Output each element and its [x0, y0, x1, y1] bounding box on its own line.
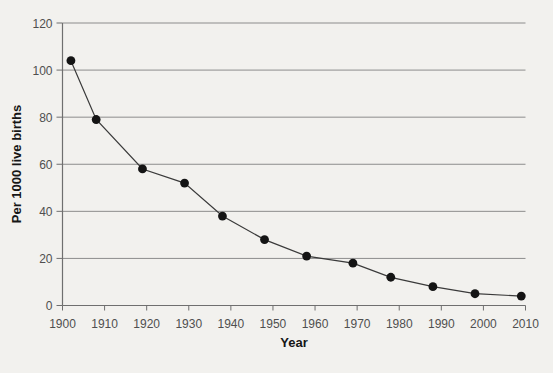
- x-tick-label-2000: 2000: [470, 317, 497, 331]
- infant-mortality-line-chart: 0204060801001201900191019201930194019501…: [0, 0, 553, 373]
- x-tick-label-1970: 1970: [344, 317, 371, 331]
- tick-marks: [57, 23, 526, 311]
- data-point-1978: [386, 273, 395, 282]
- y-tick-label-40: 40: [39, 205, 53, 219]
- gridlines: [63, 23, 526, 258]
- x-tick-label-1960: 1960: [302, 317, 329, 331]
- y-axis-title: Per 1000 live births: [9, 105, 24, 224]
- data-point-1938: [218, 212, 227, 221]
- data-point-1969: [349, 259, 358, 268]
- data-point-1908: [92, 115, 101, 124]
- x-tick-label-1930: 1930: [175, 317, 202, 331]
- x-tick-label-1900: 1900: [49, 317, 76, 331]
- data-point-2009: [517, 292, 526, 301]
- x-axis-title: Year: [280, 335, 307, 350]
- x-tick-label-1940: 1940: [218, 317, 245, 331]
- x-tick-label-1980: 1980: [386, 317, 413, 331]
- y-tick-label-20: 20: [39, 252, 53, 266]
- y-tick-label-60: 60: [39, 158, 53, 172]
- data-point-1998: [471, 289, 480, 298]
- data-point-1948: [260, 235, 269, 244]
- x-tick-label-1920: 1920: [133, 317, 160, 331]
- figure-container: 0204060801001201900191019201930194019501…: [0, 0, 553, 373]
- data-point-1958: [302, 252, 311, 261]
- x-tick-label-1990: 1990: [428, 317, 455, 331]
- y-tick-label-100: 100: [32, 64, 52, 78]
- y-tick-label-0: 0: [46, 299, 53, 313]
- data-point-1919: [138, 165, 147, 174]
- data-point-1988: [429, 282, 438, 291]
- x-tick-label-2010: 2010: [512, 317, 539, 331]
- data-point-1929: [180, 179, 189, 188]
- data-series: [67, 56, 526, 300]
- x-tick-label-1910: 1910: [91, 317, 118, 331]
- data-point-1902: [67, 56, 76, 65]
- x-tick-label-1950: 1950: [260, 317, 287, 331]
- y-tick-label-120: 120: [32, 17, 52, 31]
- tick-labels: 0204060801001201900191019201930194019501…: [32, 17, 539, 332]
- series-line: [71, 61, 521, 296]
- y-tick-label-80: 80: [39, 111, 53, 125]
